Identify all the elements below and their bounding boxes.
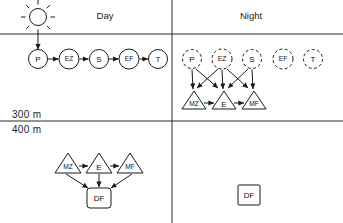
- node-day-lower-MZ: MZ: [55, 153, 81, 173]
- edge-day-MZ-to-DF: [66, 174, 88, 188]
- sun-icon: [21, 0, 55, 34]
- panel-title-day: Day: [97, 10, 114, 21]
- node-label: T: [311, 55, 316, 64]
- node-label: E: [96, 163, 101, 172]
- node-night-S: S: [243, 50, 262, 69]
- node-label: EZ: [218, 55, 226, 62]
- edge-day-MF-to-DF: [111, 174, 132, 188]
- node-night-T: T: [304, 50, 323, 69]
- node-label: EZ: [65, 55, 73, 62]
- node-label: DF: [94, 194, 105, 203]
- node-night-MF: MF: [242, 91, 266, 109]
- depth-label-400m: 400 m: [12, 124, 41, 135]
- node-label: E: [221, 100, 226, 109]
- node-day-P: P: [29, 50, 48, 69]
- node-day-S: S: [90, 50, 109, 69]
- node-label: T: [156, 55, 161, 64]
- node-label: EF: [279, 55, 287, 62]
- node-night-E: E: [212, 91, 236, 109]
- node-night-P: P: [183, 50, 202, 69]
- node-night-lower-DF: DF: [238, 185, 260, 205]
- node-night-EZ: EZ: [212, 49, 232, 69]
- node-label: MF: [249, 100, 259, 107]
- node-label: DF: [244, 191, 255, 200]
- depth-label-300m: 300 m: [12, 109, 41, 120]
- node-label: P: [35, 55, 40, 64]
- node-day-T: T: [149, 50, 168, 69]
- panel-title-night: Night: [240, 10, 263, 21]
- node-day-EZ: EZ: [59, 49, 79, 69]
- depth-zonation-diagram: Day Night 300 m 400 m: [0, 0, 343, 223]
- night-lower-nodes: DF: [238, 185, 260, 205]
- edge-night-EZ-to-E: [222, 70, 223, 89]
- node-day-EF: EF: [119, 49, 139, 69]
- node-day-lower-MF: MF: [117, 153, 143, 173]
- node-label: P: [189, 55, 194, 64]
- node-day-lower-DF: DF: [87, 188, 111, 208]
- node-label: MF: [125, 163, 135, 170]
- node-label: EF: [125, 55, 133, 62]
- node-label: S: [96, 55, 101, 64]
- panel-dividers: [0, 0, 343, 223]
- node-label: MZ: [63, 163, 73, 170]
- node-night-EF: EF: [273, 49, 293, 69]
- node-label: MZ: [189, 100, 199, 107]
- node-night-MZ: MZ: [182, 91, 206, 109]
- edge-night-S-to-MF: [252, 70, 253, 90]
- edge-night-P-to-MZ: [192, 70, 193, 90]
- node-day-lower-E: E: [86, 153, 112, 173]
- node-label: S: [249, 55, 254, 64]
